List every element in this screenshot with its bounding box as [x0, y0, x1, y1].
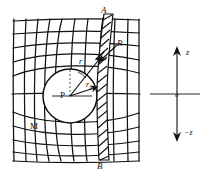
label-hole-P: P [60, 91, 65, 100]
mechanics-mesh-figure [0, 0, 202, 180]
label-B: B [97, 162, 103, 171]
label-radius-r0: r0 [86, 81, 92, 91]
hatched-strip [97, 14, 113, 160]
label-axis-negative-z: −z [184, 129, 193, 137]
label-axis-origin: o [175, 92, 179, 99]
label-material-M: M [30, 122, 38, 131]
label-A: A [101, 6, 107, 15]
label-axis-z: z [186, 49, 189, 57]
label-radius-r0-subscript: 0 [89, 85, 92, 91]
label-R: R [117, 39, 123, 48]
label-radius-r: r [79, 58, 82, 66]
